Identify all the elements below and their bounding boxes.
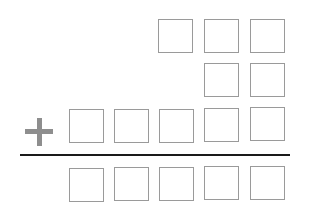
digit-box-r3-c5[interactable]: [250, 107, 285, 141]
digit-box-r3-c3[interactable]: [159, 109, 194, 143]
answer-box-c4[interactable]: [204, 166, 239, 200]
answer-box-c2[interactable]: [114, 167, 149, 201]
digit-box-r2-c5[interactable]: [250, 63, 285, 97]
answer-box-c1[interactable]: [69, 168, 104, 202]
digit-box-r2-c4[interactable]: [204, 63, 239, 97]
digit-box-r1-c3[interactable]: [158, 19, 193, 53]
digit-box-r3-c4[interactable]: [204, 108, 239, 142]
digit-box-r3-c1[interactable]: [69, 109, 104, 143]
digit-box-r3-c2[interactable]: [114, 109, 149, 143]
digit-box-r1-c5[interactable]: [250, 19, 285, 53]
sum-line: [20, 154, 290, 156]
answer-box-c5[interactable]: [250, 166, 285, 200]
digit-box-r1-c4[interactable]: [204, 19, 239, 53]
answer-box-c3[interactable]: [159, 167, 194, 201]
plus-icon: [25, 118, 53, 146]
